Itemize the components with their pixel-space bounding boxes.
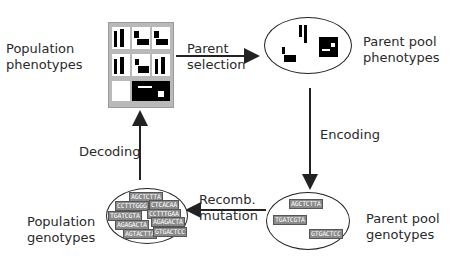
sequence-tag: AGCTCTTA [289, 199, 323, 209]
phenotype-cell [297, 23, 311, 45]
parent-selection-label: Parent selection [187, 41, 245, 73]
sequence-tag: GTGACTCC [309, 229, 343, 239]
sequence-tag: AGTACTTA [123, 229, 157, 239]
sequence-tag: CCTTTGGG [115, 201, 149, 211]
parent-pool-phenotypes-label: Parent pool phenotypes [363, 34, 440, 66]
population-phenotypes-panel [108, 22, 174, 108]
sequence-tag: TGATCGTA [273, 215, 307, 225]
sequence-tag: GTGACTCC [153, 227, 187, 237]
sequence-tag: AGAGACTA [151, 217, 185, 227]
parent-pool-genotypes-label: Parent pool genotypes [366, 211, 440, 243]
phenotype-cell [112, 81, 130, 101]
phenotype-cell [132, 27, 150, 49]
phenotype-cell [132, 81, 170, 101]
population-genotypes-ellipse: AGCTCTTA CCTTTGGG CTCACAA TGATCGTA CCTTT… [106, 188, 188, 244]
phenotype-cell [152, 54, 170, 76]
decoding-label: Decoding [79, 144, 140, 160]
phenotype-cell [319, 37, 338, 57]
phenotype-cell [112, 54, 130, 76]
encoding-label: Encoding [320, 127, 380, 143]
recomb-mutation-label: Recomb. mutation [199, 192, 258, 224]
phenotype-cell [132, 54, 150, 76]
parent-pool-genotypes-ellipse: AGCTCTTA TGATCGTA GTGACTCC [266, 192, 350, 250]
parent-pool-phenotypes-ellipse [264, 17, 352, 74]
population-genotypes-label: Population genotypes [27, 214, 95, 246]
phenotype-cell [152, 27, 170, 49]
population-phenotypes-label: Population phenotypes [6, 41, 83, 73]
phenotype-cell [281, 42, 297, 64]
phenotype-cell [112, 27, 130, 49]
